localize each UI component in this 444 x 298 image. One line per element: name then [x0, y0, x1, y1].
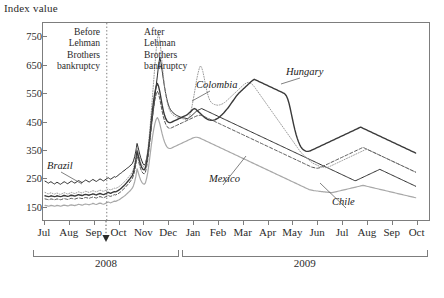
- series-leader-line: [318, 181, 348, 210]
- x-tick-mark: [392, 221, 393, 225]
- x-tick-label: Mar: [234, 226, 252, 238]
- series-canvas: [43, 23, 429, 220]
- y-tick-label: 550: [12, 88, 42, 99]
- x-tick-label: Dec: [159, 226, 177, 238]
- x-tick-mark: [268, 221, 269, 225]
- annotation-line: bankruptcy: [144, 60, 187, 71]
- x-tick-label: Aug: [59, 226, 78, 238]
- year-bracket: [33, 250, 180, 257]
- x-tick-label: Jul: [38, 226, 51, 238]
- y-tick-mark: [42, 122, 47, 123]
- x-tick-label: Jun: [310, 226, 325, 238]
- x-tick-label: Jul: [336, 226, 349, 238]
- x-tick-mark: [94, 221, 95, 225]
- y-tick-mark: [42, 207, 47, 208]
- annotation-line: Lehman: [144, 37, 187, 48]
- annotation-before-lehman: BeforeLehmanBrothersbankruptcy: [28, 26, 100, 72]
- y-tick-mark: [42, 65, 47, 66]
- x-tick-label: Sep: [384, 226, 401, 238]
- y-tick-label: 250: [12, 173, 42, 184]
- x-tick-mark: [243, 221, 244, 225]
- x-tick-mark: [168, 221, 169, 225]
- x-tick-mark: [143, 221, 144, 225]
- annotation-line: Lehman: [28, 37, 100, 48]
- x-tick-mark: [119, 221, 120, 225]
- annotation-line: Brothers: [28, 49, 100, 60]
- y-tick-mark: [42, 36, 47, 37]
- y-tick-label: 150: [12, 201, 42, 212]
- x-tick-mark: [193, 221, 194, 225]
- x-tick-label: Aug: [357, 226, 376, 238]
- x-tick-label: Jan: [186, 226, 201, 238]
- annotation-line: Brothers: [144, 49, 187, 60]
- annotation-line: Before: [28, 26, 100, 37]
- x-tick-label: Oct: [409, 226, 425, 238]
- x-tick-mark: [218, 221, 219, 225]
- x-tick-mark: [417, 221, 418, 225]
- x-tick-mark: [44, 221, 45, 225]
- y-tick-label: 450: [12, 116, 42, 127]
- annotation-line: bankruptcy: [28, 60, 100, 71]
- x-tick-mark: [342, 221, 343, 225]
- series-leader-line: [190, 77, 212, 115]
- series-leader-line: [207, 154, 262, 187]
- chart-root: Index value 150250350450550650750 Before…: [0, 0, 444, 298]
- annotation-line: After: [144, 26, 187, 37]
- x-tick-label: Nov: [134, 226, 153, 238]
- x-tick-mark: [367, 221, 368, 225]
- lehman-arrow-icon: [99, 221, 113, 247]
- y-tick-mark: [42, 150, 47, 151]
- series-leader-line: [45, 158, 98, 198]
- x-tick-label: Feb: [210, 226, 227, 238]
- y-tick-mark: [42, 178, 47, 179]
- x-tick-mark: [317, 221, 318, 225]
- year-label: 2009: [294, 257, 316, 269]
- y-tick-label: 350: [12, 144, 42, 155]
- x-tick-mark: [69, 221, 70, 225]
- year-bracket: [182, 250, 428, 257]
- annotation-after-lehman: AfterLehmanBrothersbankruptcy: [144, 26, 187, 72]
- x-tick-label: Apr: [259, 226, 276, 238]
- plot-area: [42, 22, 430, 221]
- y-tick-mark: [42, 93, 47, 94]
- series-leader-line: [279, 64, 302, 98]
- x-tick-mark: [292, 221, 293, 225]
- year-label: 2008: [95, 257, 117, 269]
- x-tick-label: May: [282, 226, 302, 238]
